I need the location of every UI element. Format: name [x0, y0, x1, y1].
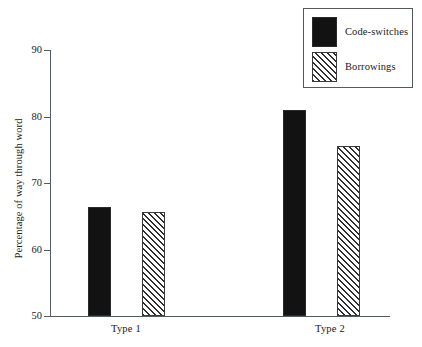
y-tick-text-90: 90 [32, 44, 43, 55]
y-tick-text-80: 80 [32, 111, 43, 122]
legend-swatch-code-switches-icon [312, 17, 337, 47]
y-tick-mark-60 [44, 250, 50, 251]
y-tick-text-60: 60 [32, 244, 43, 255]
y-tick-mark-50 [44, 316, 50, 317]
y-tick-mark-90 [44, 50, 50, 51]
bar-type1-borrowings [142, 212, 165, 316]
x-axis-line [50, 316, 390, 317]
y-axis-title: Percentage of way through word [13, 89, 24, 289]
y-tick-mark-70 [44, 183, 50, 184]
bar-type2-code-switches [283, 110, 306, 316]
chart-legend: Code-switches Borrowings [303, 8, 413, 88]
x-label-type1: Type 1 [66, 322, 186, 335]
y-axis-line [50, 50, 51, 316]
legend-label-borrowings: Borrowings [345, 61, 396, 73]
legend-label-code-switches: Code-switches [345, 26, 408, 38]
legend-swatch-borrowings-icon [312, 52, 337, 82]
bar-type2-borrowings [337, 146, 360, 316]
bar-chart: Code-switches Borrowings Percentage of w… [0, 0, 422, 347]
y-tick-text-70: 70 [32, 177, 43, 188]
y-tick-text-50: 50 [32, 310, 43, 321]
x-label-type2: Type 2 [270, 322, 390, 335]
bar-type1-code-switches [88, 207, 111, 316]
y-tick-mark-80 [44, 117, 50, 118]
